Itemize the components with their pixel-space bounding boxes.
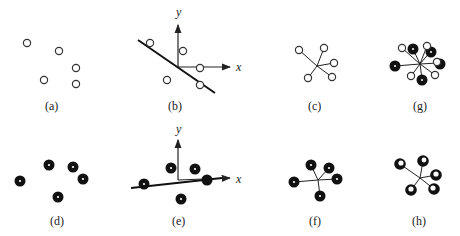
panel-label-e: (e) — [172, 214, 185, 228]
figure-canvas: (a) y x (b) (c) — [0, 0, 460, 236]
axis-label-y-e: y — [175, 122, 182, 136]
panel-label-a: (a) — [45, 99, 58, 113]
panel-label-h: (h) — [412, 214, 426, 228]
panel-c — [295, 44, 337, 81]
axis-label-x-e: x — [235, 172, 242, 186]
panel-a — [23, 39, 79, 87]
panel-d — [15, 160, 89, 203]
axis-label-x-b: x — [235, 60, 242, 74]
panel-b — [138, 25, 230, 93]
axis-label-y-b: y — [175, 5, 182, 19]
panel-h — [394, 155, 442, 196]
panel-e — [131, 140, 230, 205]
panel-label-d: (d) — [50, 214, 64, 228]
panel-label-c: (c) — [308, 99, 321, 113]
panel-label-g: (g) — [413, 99, 427, 113]
panel-label-b: (b) — [168, 99, 182, 113]
panel-label-f: (f) — [309, 214, 321, 228]
panel-g — [390, 42, 446, 85]
panel-f — [289, 160, 343, 202]
